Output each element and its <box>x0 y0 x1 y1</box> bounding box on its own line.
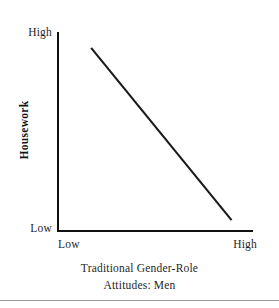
trend-line-series-1 <box>91 48 231 220</box>
footer-divider <box>0 300 279 301</box>
y-axis-tick-low: Low <box>0 222 52 235</box>
y-axis-tick-high: High <box>0 26 52 39</box>
x-axis-tick-high: High <box>191 238 257 251</box>
y-axis-title: Housework <box>18 60 30 200</box>
x-axis-title: Traditional Gender-Role Attitudes: Men <box>0 260 279 294</box>
x-axis-title-line-2: Attitudes: Men <box>0 277 279 294</box>
x-axis-tick-low: Low <box>58 238 80 251</box>
x-axis-title-line-1: Traditional Gender-Role <box>0 260 279 277</box>
figure-container: High Low Low High Housework Traditional … <box>0 0 279 308</box>
